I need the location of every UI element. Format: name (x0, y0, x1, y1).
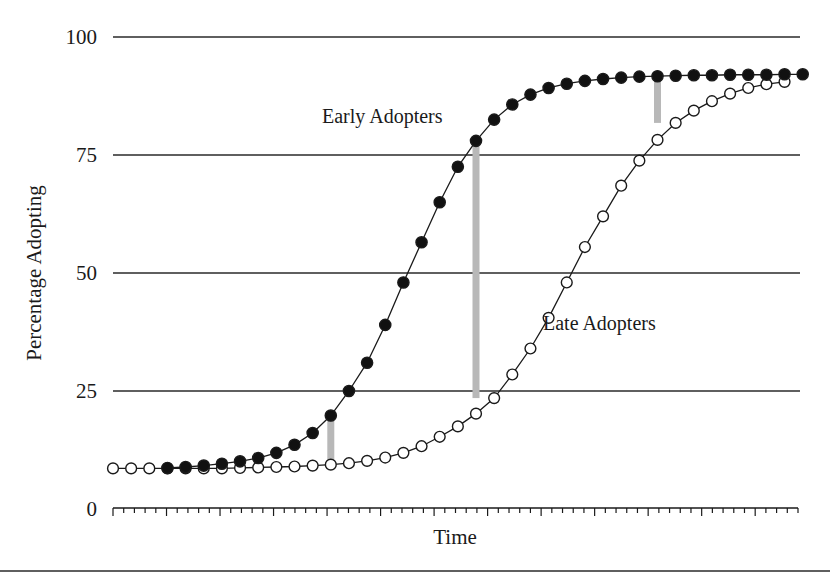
early-adopters-label: Early Adopters (322, 105, 443, 128)
open-circle-marker-icon (344, 458, 355, 469)
filled-circle-marker-icon (180, 461, 191, 472)
adoption-gap-bar (473, 141, 480, 398)
filled-circle-marker-icon (434, 197, 445, 208)
series-line (113, 82, 785, 469)
y-tick-label: 25 (76, 379, 97, 403)
late-adopters-label: Late Adopters (543, 312, 656, 335)
filled-circle-marker-icon (398, 277, 409, 288)
open-circle-marker-icon (126, 463, 137, 474)
open-circle-marker-icon (289, 461, 300, 472)
open-circle-marker-icon (598, 211, 609, 222)
filled-circle-marker-icon (597, 73, 608, 84)
filled-circle-marker-icon (725, 69, 736, 80)
filled-circle-marker-icon (779, 69, 790, 80)
filled-circle-marker-icon (616, 72, 627, 83)
filled-circle-marker-icon (652, 71, 663, 82)
filled-circle-marker-icon (561, 78, 572, 89)
filled-circle-marker-icon (325, 410, 336, 421)
filled-circle-marker-icon (216, 458, 227, 469)
y-tick-label: 100 (66, 25, 98, 49)
filled-circle-marker-icon (797, 69, 808, 80)
gridlines (113, 37, 800, 391)
open-circle-marker-icon (108, 463, 119, 474)
x-axis (113, 508, 798, 516)
open-circle-marker-icon (670, 118, 681, 129)
open-circle-marker-icon (707, 96, 718, 107)
open-circle-marker-icon (743, 83, 754, 94)
open-circle-marker-icon (144, 463, 155, 474)
open-circle-marker-icon (452, 421, 463, 432)
adoption-chart: 0255075100 Percentage Adopting Time Earl… (0, 0, 830, 577)
y-axis-ticks: 0255075100 (66, 25, 98, 521)
filled-circle-marker-icon (579, 75, 590, 86)
open-circle-marker-icon (416, 441, 427, 452)
filled-circle-marker-icon (380, 319, 391, 330)
filled-circle-marker-icon (743, 69, 754, 80)
y-tick-label: 0 (87, 497, 98, 521)
early-adopters-series (162, 69, 808, 474)
filled-circle-marker-icon (543, 82, 554, 93)
y-tick-label: 75 (76, 143, 97, 167)
open-circle-marker-icon (489, 393, 500, 404)
open-circle-marker-icon (307, 460, 318, 471)
y-axis-title: Percentage Adopting (22, 185, 46, 361)
x-axis-title: Time (433, 525, 477, 549)
open-circle-marker-icon (471, 408, 482, 419)
gap-bars (327, 77, 661, 464)
open-circle-marker-icon (362, 455, 373, 466)
adoption-gap-bar (654, 77, 661, 123)
open-circle-marker-icon (380, 452, 391, 463)
filled-circle-marker-icon (761, 69, 772, 80)
open-circle-marker-icon (580, 242, 591, 253)
filled-circle-marker-icon (507, 99, 518, 110)
filled-circle-marker-icon (452, 161, 463, 172)
open-circle-marker-icon (434, 431, 445, 442)
filled-circle-marker-icon (271, 447, 282, 458)
late-adopters-series (108, 76, 790, 473)
filled-circle-marker-icon (289, 439, 300, 450)
open-circle-marker-icon (725, 88, 736, 99)
open-circle-marker-icon (688, 105, 699, 116)
series (108, 69, 809, 474)
filled-circle-marker-icon (489, 114, 500, 125)
filled-circle-marker-icon (234, 456, 245, 467)
filled-circle-marker-icon (162, 462, 173, 473)
filled-circle-marker-icon (706, 70, 717, 81)
open-circle-marker-icon (616, 180, 627, 191)
open-circle-marker-icon (398, 447, 409, 458)
open-circle-marker-icon (634, 155, 645, 166)
filled-circle-marker-icon (416, 237, 427, 248)
open-circle-marker-icon (271, 462, 282, 473)
filled-circle-marker-icon (307, 427, 318, 438)
filled-circle-marker-icon (525, 89, 536, 100)
open-circle-marker-icon (325, 459, 336, 470)
series-line (167, 74, 802, 468)
y-tick-label: 50 (76, 261, 97, 285)
filled-circle-marker-icon (362, 357, 373, 368)
adoption-gap-bar (327, 416, 334, 464)
open-circle-marker-icon (525, 343, 536, 354)
filled-circle-marker-icon (198, 460, 209, 471)
filled-circle-marker-icon (688, 70, 699, 81)
filled-circle-marker-icon (670, 70, 681, 81)
filled-circle-marker-icon (253, 452, 264, 463)
filled-circle-marker-icon (470, 135, 481, 146)
open-circle-marker-icon (652, 134, 663, 145)
filled-circle-marker-icon (634, 71, 645, 82)
open-circle-marker-icon (507, 369, 518, 380)
open-circle-marker-icon (561, 277, 572, 288)
filled-circle-marker-icon (343, 385, 354, 396)
